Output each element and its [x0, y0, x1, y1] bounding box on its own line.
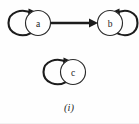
figure-container: a b c (i) — [0, 0, 139, 124]
node-c[interactable]: c — [61, 60, 86, 85]
edge-a-to-b-arrowhead — [89, 18, 98, 27]
node-b-label: b — [108, 19, 113, 29]
graph-canvas: a b c (i) — [0, 0, 139, 124]
node-c-label: c — [71, 68, 75, 78]
node-b[interactable]: b — [98, 11, 123, 36]
bottom-divider — [0, 123, 139, 124]
edge-a-to-b — [51, 18, 99, 27]
figure-caption: (i) — [64, 102, 74, 114]
node-a[interactable]: a — [26, 11, 51, 36]
